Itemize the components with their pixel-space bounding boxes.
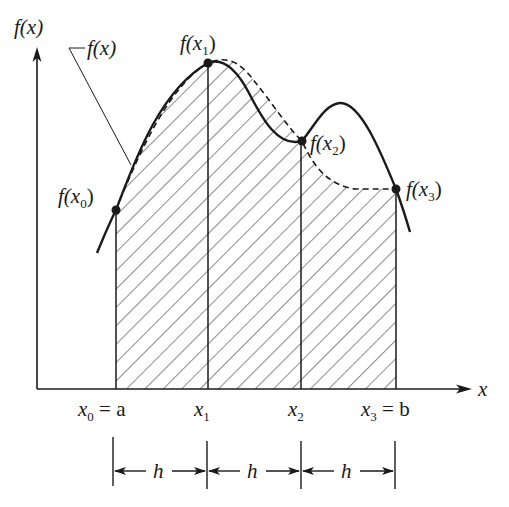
tick-x0: x0 = a [77, 397, 126, 424]
hatched-area [110, 40, 410, 392]
point-f-x3 [392, 185, 401, 194]
label-f-x3: f(x3) [406, 177, 442, 204]
point-f-x2 [298, 137, 307, 146]
tick-x1: x1 [193, 397, 210, 424]
interval-label-2: h [247, 459, 258, 483]
label-f-x1: f(x1) [180, 31, 216, 58]
tick-x2: x2 [287, 397, 304, 424]
x-axis-label: x [477, 377, 488, 401]
curve-label-leader [69, 48, 131, 165]
tick-x3: x3 = b [360, 397, 410, 424]
y-axis-label: f(x) [14, 15, 43, 39]
point-f-x0 [112, 206, 121, 215]
interval-label-3: h [341, 459, 352, 483]
point-f-x1 [204, 59, 213, 68]
integration-diagram: f(x) f(x) x f(x0) f(x1) f(x2) f(x3) x0 =… [0, 0, 509, 507]
curve-label: f(x) [87, 36, 116, 60]
interval-label-1: h [153, 459, 164, 483]
label-f-x0: f(x0) [58, 184, 94, 211]
label-f-x2: f(x2) [310, 131, 346, 158]
y-axis [33, 47, 42, 389]
